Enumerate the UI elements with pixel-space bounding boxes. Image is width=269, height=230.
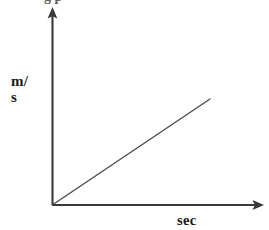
axes-group — [48, 7, 264, 210]
speed-line-series — [53, 99, 210, 205]
y-axis-label: m/ s — [11, 74, 28, 106]
data-series-group — [53, 99, 210, 205]
x-axis-label: sec — [177, 213, 196, 228]
graph-canvas — [0, 0, 269, 230]
graph-figure: g p m/ s sec — [0, 0, 269, 230]
